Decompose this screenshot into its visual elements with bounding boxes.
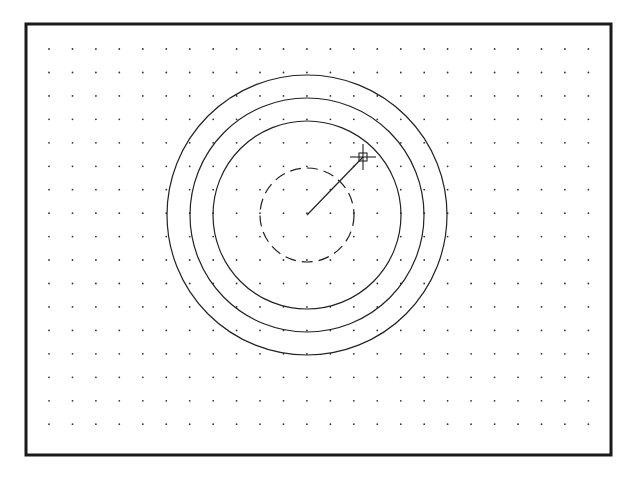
grid-dot	[306, 118, 308, 120]
grid-dot	[447, 283, 449, 285]
grid-dot	[470, 376, 472, 378]
grid-dot	[447, 330, 449, 332]
grid-dot	[353, 330, 355, 332]
grid-dot	[48, 330, 50, 332]
grid-dot	[165, 259, 167, 261]
grid-dot	[423, 423, 425, 425]
grid-dot	[330, 212, 332, 214]
grid-dot	[212, 236, 214, 238]
grid-dot	[212, 72, 214, 74]
grid-dot	[95, 236, 97, 238]
grid-dot	[541, 423, 543, 425]
grid-dot	[376, 95, 378, 97]
grid-dot	[236, 189, 238, 191]
grid-dot	[470, 118, 472, 120]
grid-dot	[564, 423, 566, 425]
grid-dot	[118, 353, 120, 355]
grid-dot	[353, 72, 355, 74]
grid-dot	[212, 259, 214, 261]
grid-dot	[400, 353, 402, 355]
grid-dot	[283, 376, 285, 378]
grid-dot	[494, 376, 496, 378]
grid-dot	[95, 306, 97, 308]
drawing-canvas[interactable]	[0, 0, 636, 480]
grid-dot	[72, 165, 74, 167]
grid-dot	[470, 212, 472, 214]
grid-dot	[564, 330, 566, 332]
grid-dot	[541, 118, 543, 120]
grid-dot	[48, 142, 50, 144]
grid-dot	[588, 376, 590, 378]
grid-dot	[470, 353, 472, 355]
grid-dot	[423, 95, 425, 97]
grid-dot	[118, 212, 120, 214]
grid-dot	[588, 400, 590, 402]
grid-dot	[142, 72, 144, 74]
grid-dot	[494, 259, 496, 261]
grid-dot	[189, 118, 191, 120]
grid-dot	[118, 142, 120, 144]
grid-dot	[283, 400, 285, 402]
grid-dot	[447, 423, 449, 425]
grid-dot	[259, 48, 261, 50]
grid-dot	[588, 306, 590, 308]
grid-dot	[588, 118, 590, 120]
grid-dot	[236, 118, 238, 120]
grid-dot	[72, 259, 74, 261]
grid-dot	[588, 330, 590, 332]
grid-dot	[259, 72, 261, 74]
grid-dot	[517, 95, 519, 97]
grid-dot	[447, 95, 449, 97]
grid-dot	[588, 48, 590, 50]
grid-dot	[48, 72, 50, 74]
grid-dot	[447, 118, 449, 120]
grid-dot	[212, 376, 214, 378]
grid-dot	[494, 236, 496, 238]
grid-dot	[376, 142, 378, 144]
grid-dot	[353, 259, 355, 261]
grid-dot	[353, 376, 355, 378]
grid-dot	[588, 353, 590, 355]
grid-dot	[564, 259, 566, 261]
grid-dot	[259, 376, 261, 378]
grid-dot	[470, 48, 472, 50]
grid-dot	[423, 330, 425, 332]
grid-dot	[376, 118, 378, 120]
grid-dot	[447, 236, 449, 238]
grid-dot	[118, 306, 120, 308]
grid-dot	[259, 118, 261, 120]
grid-dot	[517, 142, 519, 144]
grid-dot	[400, 189, 402, 191]
grid-dot	[541, 212, 543, 214]
grid-dot	[48, 236, 50, 238]
grid-dot	[48, 400, 50, 402]
grid-dot	[376, 330, 378, 332]
grid-dot	[236, 212, 238, 214]
grid-dot	[564, 306, 566, 308]
grid-dot	[494, 283, 496, 285]
grid-dot	[189, 142, 191, 144]
grid-dot	[142, 212, 144, 214]
grid-dot	[142, 189, 144, 191]
grid-dot	[306, 95, 308, 97]
grid-dot	[142, 118, 144, 120]
grid-dot	[494, 48, 496, 50]
grid-dot	[470, 330, 472, 332]
grid-dot	[541, 376, 543, 378]
grid-dot	[72, 72, 74, 74]
grid-dot	[494, 165, 496, 167]
grid-dot	[517, 423, 519, 425]
grid-dot	[541, 283, 543, 285]
grid-dot	[142, 423, 144, 425]
grid-dot	[376, 259, 378, 261]
grid-dot	[494, 306, 496, 308]
grid-dot	[541, 330, 543, 332]
grid-dot	[236, 48, 238, 50]
grid-dot	[236, 283, 238, 285]
grid-dot	[118, 423, 120, 425]
grid-dot	[95, 165, 97, 167]
grid-dot	[72, 95, 74, 97]
grid-dot	[447, 48, 449, 50]
grid-dot	[494, 189, 496, 191]
grid-dot	[541, 306, 543, 308]
